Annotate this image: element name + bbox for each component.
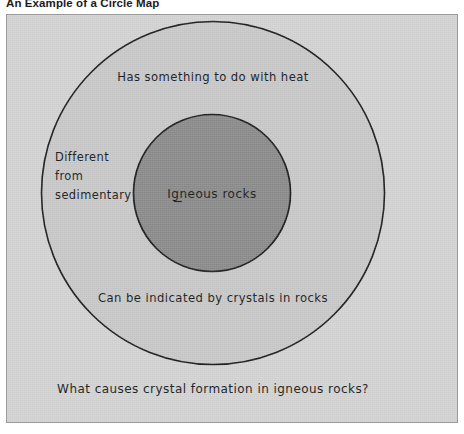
center-label: Igneous rocks <box>167 187 256 201</box>
frame-question: What causes crystal formation in igneous… <box>57 382 369 396</box>
ring-label-left-line-3: sedimentary <box>55 188 131 202</box>
circle-map-panel: Has something to do with heat Different … <box>6 14 458 423</box>
ring-label-bottom: Can be indicated by crystals in rocks <box>98 291 328 305</box>
ring-label-left-line-1: Different <box>55 150 109 164</box>
ring-label-top: Has something to do with heat <box>117 70 309 84</box>
figure-caption: An Example of a Circle Map <box>6 0 426 11</box>
circle-map-graphic: Has something to do with heat Different … <box>7 15 458 423</box>
ring-label-left-line-2: from <box>55 169 83 183</box>
